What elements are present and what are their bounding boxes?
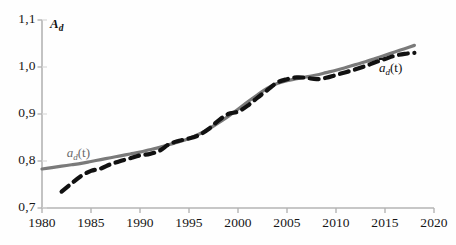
x-tick-label: 2005: [264, 215, 310, 231]
x-tick-label: 2015: [362, 215, 408, 231]
y-tick-label: 1,0: [2, 58, 36, 74]
axis-lines: [38, 20, 435, 213]
y-axis-title: Ad: [50, 16, 63, 33]
x-tick-label: 2020: [411, 215, 456, 231]
series-label-argument: (t): [390, 60, 402, 75]
chart-plot-area: [0, 0, 456, 245]
series-label-argument: (t): [78, 145, 90, 160]
y-tick-label: 1,1: [2, 11, 36, 27]
series-path-a-d-t-: [42, 45, 414, 169]
x-tick-label: 2010: [313, 215, 359, 231]
x-tick-label: 1990: [117, 215, 163, 231]
data-series-group: [42, 45, 414, 191]
x-tick-label: 1985: [68, 215, 114, 231]
x-tick-label: 1995: [166, 215, 212, 231]
x-tick-label: 1980: [19, 215, 65, 231]
y-tick-label: 0,9: [2, 105, 36, 121]
y-axis-title-symbol: A: [50, 16, 59, 31]
y-tick-label: 0,8: [2, 152, 36, 168]
series-label-symbol: a: [379, 60, 386, 76]
y-axis-title-subscript: d: [59, 23, 64, 33]
series-label-a-d: ad(t): [67, 145, 90, 162]
y-tick-label: 0,7: [2, 199, 36, 215]
series-label-abar-d: ad(t): [379, 60, 402, 77]
chart-container: Ad ad(t) ad(t) 0,70,80,91,01,1 198019851…: [0, 0, 456, 245]
x-tick-label: 2000: [215, 215, 261, 231]
series-path-abar-d-t-: [62, 53, 415, 192]
